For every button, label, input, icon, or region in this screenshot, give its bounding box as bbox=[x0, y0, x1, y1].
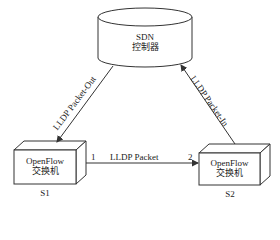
switch-s1-port: 1 bbox=[91, 152, 96, 162]
switch-s2-port: 2 bbox=[188, 152, 193, 162]
switch-s2-type: OpenFlow bbox=[199, 158, 260, 168]
switch-s1-type: OpenFlow bbox=[14, 156, 76, 166]
packet-out-arrow bbox=[57, 66, 113, 142]
controller-subtitle: 控制器 bbox=[115, 42, 175, 52]
switch-s2-label: OpenFlow 交换机 bbox=[199, 158, 260, 178]
controller-title: SDN bbox=[115, 32, 175, 42]
switch-s2-subtype: 交换机 bbox=[199, 168, 260, 178]
lldp-packet-label: LLDP Packet bbox=[110, 152, 158, 162]
switch-s1-label: OpenFlow 交换机 bbox=[14, 156, 76, 176]
switch-s1-subtype: 交换机 bbox=[14, 166, 76, 176]
switch-s1-id: S1 bbox=[30, 188, 60, 198]
controller-label: SDN 控制器 bbox=[115, 32, 175, 52]
switch-s2-id: S2 bbox=[215, 189, 245, 199]
